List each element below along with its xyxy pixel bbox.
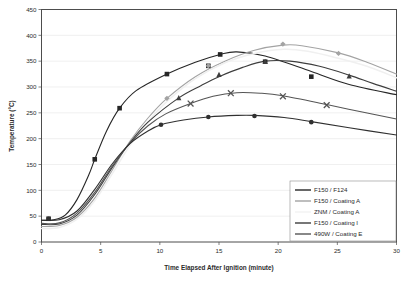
data-point-circle — [206, 115, 211, 120]
y-tick-label: 150 — [26, 161, 37, 168]
data-point-square — [165, 72, 170, 77]
y-tick-label: 300 — [26, 83, 37, 90]
y-tick-label: 100 — [26, 187, 37, 194]
chart-legend: F150 / F124F150 / Coating AZNM / Coating… — [290, 181, 396, 241]
x-tick-label: 0 — [40, 247, 44, 254]
legend-label: 490W / Coating E — [314, 230, 363, 237]
x-tick-label: 30 — [393, 247, 400, 254]
x-tick-label: 5 — [99, 247, 103, 254]
y-tick-label: 250 — [26, 109, 37, 116]
chart-figure: 050100150200250300350400450 051015202530… — [0, 0, 413, 281]
x-tick-label: 15 — [216, 247, 223, 254]
data-point-circle — [159, 122, 164, 127]
data-point-circle — [46, 216, 51, 221]
x-tick-label: 25 — [334, 247, 341, 254]
legend-label: ZNM / Coating A — [314, 208, 360, 215]
legend-label: F150 / F124 — [314, 186, 348, 193]
data-point-square — [92, 157, 97, 162]
legend-label: F150 / Coating A — [314, 197, 361, 204]
y-tick-label: 350 — [26, 57, 37, 64]
x-axis-title: Time Elapsed After Ignition (minute) — [164, 264, 273, 272]
data-point-square — [218, 52, 223, 57]
y-axis-title: Temperature (°C) — [8, 100, 16, 151]
temperature-vs-time-line-chart: 050100150200250300350400450 051015202530… — [0, 0, 413, 281]
data-point-square — [309, 74, 314, 79]
y-tick-label: 200 — [26, 135, 37, 142]
y-tick-label: 0 — [33, 238, 37, 245]
y-tick-label: 50 — [30, 212, 37, 219]
x-tick-label: 20 — [275, 247, 282, 254]
legend-label: F150 / Coating I — [314, 219, 358, 226]
y-tick-label: 450 — [26, 6, 37, 13]
x-tick-label: 10 — [156, 247, 163, 254]
y-tick-label: 400 — [26, 32, 37, 39]
data-point-circle — [309, 120, 314, 125]
data-point-circle — [252, 114, 257, 119]
data-point-square — [117, 106, 122, 111]
